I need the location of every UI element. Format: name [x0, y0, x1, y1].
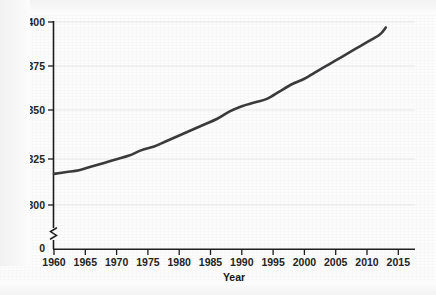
- x-tick-label-1975: 1975: [136, 256, 160, 268]
- co2-line-chart: 400 375 350 325 300 0 1960 1965 1970 197…: [0, 0, 436, 295]
- y-axis-title: Carbon dioxide concentration (parts per …: [7, 15, 19, 255]
- x-tick-label-1985: 1985: [199, 256, 223, 268]
- x-tick-label-1965: 1965: [74, 256, 98, 268]
- gridlines: [54, 22, 415, 205]
- y-tick-label-300: 300: [27, 199, 45, 211]
- y-tick-label-325: 325: [27, 153, 45, 165]
- x-tick-label-1990: 1990: [230, 256, 254, 268]
- y-tick-label-0: 0: [39, 242, 45, 254]
- x-axis-title: Year: [223, 271, 245, 283]
- x-tick-label-2000: 2000: [293, 256, 317, 268]
- x-tick-label-1960: 1960: [42, 256, 66, 268]
- figure-page: 400 375 350 325 300 0 1960 1965 1970 197…: [0, 0, 436, 295]
- x-tick-label-1970: 1970: [105, 256, 129, 268]
- y-tick-label-375: 375: [27, 60, 45, 72]
- y-tick-label-400: 400: [27, 16, 45, 28]
- cropped-caption-ghost: [40, 286, 396, 294]
- x-tick-label-1980: 1980: [168, 256, 192, 268]
- x-tick-label-1995: 1995: [261, 256, 285, 268]
- x-tick-label-2005: 2005: [324, 256, 348, 268]
- x-tick-label-2015: 2015: [387, 256, 411, 268]
- co2-data-line: [54, 27, 386, 173]
- y-tick-label-350: 350: [27, 104, 45, 116]
- x-tick-label-2010: 2010: [355, 256, 379, 268]
- axis-break-zigzag-icon: [51, 228, 57, 239]
